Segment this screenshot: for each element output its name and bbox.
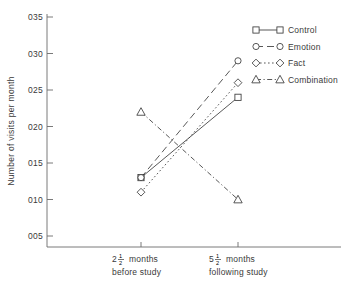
x-cat-frac-numerator: 1 bbox=[119, 253, 122, 259]
legend-label: Control bbox=[288, 25, 317, 35]
series-emotion bbox=[138, 58, 241, 181]
x-cat-unit: months bbox=[129, 254, 158, 264]
y-tick-label: 025 bbox=[28, 85, 43, 95]
series-line bbox=[141, 61, 238, 178]
data-point-marker bbox=[137, 108, 145, 116]
y-axis-ticks bbox=[47, 17, 53, 236]
x-category-label-2: 5 1 2 months following study bbox=[209, 253, 268, 277]
x-cat-frac-denominator: 2 bbox=[119, 260, 122, 266]
legend-item-control[interactable]: Control bbox=[253, 25, 317, 35]
legend-marker bbox=[276, 59, 284, 67]
x-axis-ticks bbox=[141, 242, 238, 247]
data-point-marker bbox=[234, 79, 242, 87]
data-series-layer bbox=[137, 58, 242, 203]
line-chart-canvas: 035 030 025 020 015 010 005 Number of vi… bbox=[0, 0, 360, 284]
legend-marker bbox=[253, 43, 259, 49]
data-point-marker bbox=[138, 175, 144, 181]
series-line bbox=[141, 83, 238, 193]
series-line bbox=[141, 112, 238, 200]
data-point-marker bbox=[235, 94, 241, 100]
x-cat-whole: 2 bbox=[112, 254, 117, 264]
x-category-label-1: 2 1 2 months before study bbox=[112, 253, 162, 277]
data-point-marker bbox=[137, 188, 145, 196]
chart-figure: 035 030 025 020 015 010 005 Number of vi… bbox=[0, 0, 360, 284]
legend-marker bbox=[253, 27, 259, 33]
legend-item-combination[interactable]: Combination bbox=[252, 75, 338, 85]
y-axis-tick-labels: 035 030 025 020 015 010 005 bbox=[28, 12, 43, 241]
data-point-marker bbox=[235, 58, 241, 64]
y-axis-title: Number of visits per month bbox=[6, 76, 16, 185]
x-cat-frac-denominator: 2 bbox=[216, 260, 219, 266]
legend-label: Combination bbox=[288, 75, 338, 85]
legend-item-emotion[interactable]: Emotion bbox=[253, 42, 321, 52]
y-tick-label: 020 bbox=[28, 122, 43, 132]
legend-marker bbox=[252, 59, 260, 67]
series-combination bbox=[137, 108, 242, 203]
y-tick-label: 005 bbox=[28, 231, 43, 241]
x-cat-sub: before study bbox=[112, 267, 162, 277]
y-tick-label: 015 bbox=[28, 158, 43, 168]
x-cat-whole: 5 bbox=[209, 254, 214, 264]
legend-label: Fact bbox=[288, 58, 306, 68]
x-cat-sub: following study bbox=[209, 267, 268, 277]
legend-label: Emotion bbox=[288, 42, 321, 52]
x-cat-frac-numerator: 1 bbox=[216, 253, 219, 259]
x-cat-unit: months bbox=[226, 254, 255, 264]
y-tick-label: 030 bbox=[28, 49, 43, 59]
legend-marker bbox=[277, 43, 283, 49]
y-tick-label: 010 bbox=[28, 195, 43, 205]
legend-marker bbox=[277, 27, 283, 33]
legend-item-fact[interactable]: Fact bbox=[252, 58, 306, 68]
legend-marker bbox=[276, 75, 284, 83]
legend: ControlEmotionFactCombination bbox=[252, 25, 338, 85]
series-fact bbox=[137, 79, 242, 196]
y-tick-label: 035 bbox=[28, 12, 43, 22]
